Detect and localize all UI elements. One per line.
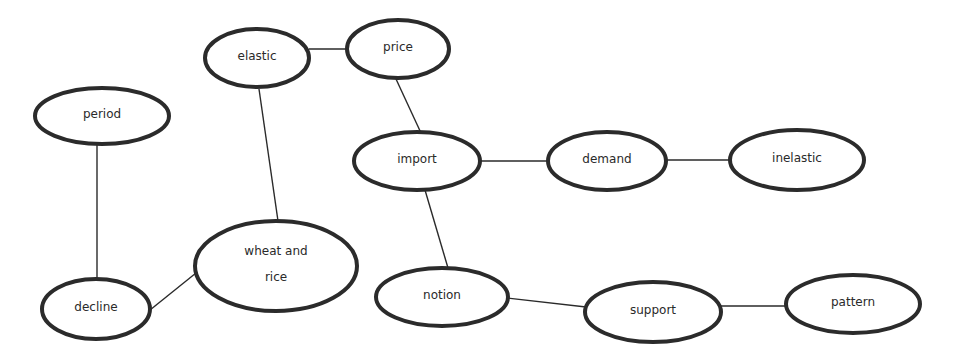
edge-notion-support bbox=[507, 298, 586, 307]
node-demand: demand bbox=[548, 132, 666, 190]
node-label: decline bbox=[74, 300, 117, 314]
node-price: price bbox=[347, 20, 449, 78]
node-label: elastic bbox=[238, 49, 277, 63]
node-label: price bbox=[383, 40, 413, 54]
node-decline: decline bbox=[42, 279, 150, 339]
node-label: inelastic bbox=[772, 151, 822, 165]
node-support: support bbox=[585, 282, 721, 342]
edge-elastic-wheat-and-rice bbox=[259, 89, 278, 221]
node-label: support bbox=[630, 303, 676, 317]
nodes-layer: elasticpriceperiodimportdemandinelasticw… bbox=[35, 20, 920, 342]
node-inelastic: inelastic bbox=[730, 130, 864, 190]
node-label: pattern bbox=[831, 295, 875, 309]
node-period: period bbox=[35, 88, 169, 144]
node-label: rice bbox=[265, 270, 287, 284]
concept-map: elasticpriceperiodimportdemandinelasticw… bbox=[0, 0, 955, 359]
node-pattern: pattern bbox=[786, 275, 920, 333]
node-notion: notion bbox=[376, 268, 508, 326]
node-ellipse bbox=[195, 221, 357, 311]
node-label: import bbox=[397, 152, 437, 166]
node-import: import bbox=[354, 132, 480, 190]
node-label: wheat and bbox=[244, 244, 307, 258]
edge-price-import bbox=[396, 79, 421, 133]
node-wheat-and-rice: wheat andrice bbox=[195, 221, 357, 311]
node-label: period bbox=[83, 107, 121, 121]
edge-import-notion bbox=[425, 190, 448, 268]
edge-decline-wheat-and-rice bbox=[150, 273, 196, 310]
node-label: demand bbox=[582, 152, 631, 166]
node-label: notion bbox=[423, 288, 461, 302]
node-elastic: elastic bbox=[205, 29, 309, 87]
